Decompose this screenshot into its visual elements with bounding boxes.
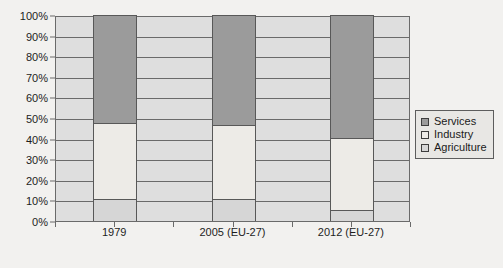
y-axis-tick-label: 40% xyxy=(0,134,48,145)
y-axis-tick-label: 20% xyxy=(0,175,48,186)
x-axis-boundary-tick-mark xyxy=(410,222,411,227)
bar-segment-industry xyxy=(330,139,374,211)
legend-item-label: Industry xyxy=(434,128,473,141)
y-axis-tick-label: 90% xyxy=(0,31,48,42)
legend-item-label: Services xyxy=(434,115,476,128)
legend-item-label: Agriculture xyxy=(434,141,487,154)
y-axis-tick-mark xyxy=(50,180,55,181)
y-axis-tick-mark xyxy=(50,16,55,17)
legend-swatch-icon xyxy=(421,144,429,152)
bar-segment-agriculture xyxy=(93,200,137,221)
x-axis-tick-label: 2005 (EU-27) xyxy=(199,226,265,238)
y-axis-tick-label: 70% xyxy=(0,72,48,83)
y-axis-tick-label: 0% xyxy=(0,217,48,228)
y-axis-tick-label: 10% xyxy=(0,196,48,207)
y-axis-tick-mark xyxy=(50,201,55,202)
legend-swatch-icon xyxy=(421,118,429,126)
bar-segment-agriculture xyxy=(330,211,374,221)
bar-segment-industry xyxy=(212,126,256,200)
legend-item: Services xyxy=(421,115,487,128)
bar-2005-eu-27- xyxy=(212,17,256,221)
y-axis-tick-label: 100% xyxy=(0,11,48,22)
x-axis: 19792005 (EU-27)2012 (EU-27) xyxy=(55,226,410,246)
plot-area xyxy=(55,16,410,222)
legend-item: Agriculture xyxy=(421,141,487,154)
bar-segment-services xyxy=(212,15,256,126)
y-axis-tick-label: 60% xyxy=(0,93,48,104)
y-axis-tick-mark xyxy=(50,139,55,140)
stacked-bar-chart: 0%10%20%30%40%50%60%70%80%90%100% 197920… xyxy=(0,0,503,268)
x-axis-boundary-tick-mark xyxy=(292,222,293,227)
x-axis-boundary-tick-mark xyxy=(173,222,174,227)
x-axis-boundary-tick-mark xyxy=(55,222,56,227)
bar-segment-agriculture xyxy=(212,200,256,221)
y-axis-tick-mark xyxy=(50,98,55,99)
y-axis-tick-mark xyxy=(50,77,55,78)
y-axis-tick-label: 50% xyxy=(0,114,48,125)
x-axis-tick-mark xyxy=(114,222,115,227)
legend-item: Industry xyxy=(421,128,487,141)
y-axis-tick-label: 30% xyxy=(0,155,48,166)
x-axis-tick-mark xyxy=(233,222,234,227)
y-axis-tick-mark xyxy=(50,57,55,58)
y-axis-tick-mark xyxy=(50,160,55,161)
y-axis-tick-label: 80% xyxy=(0,52,48,63)
bar-segment-services xyxy=(330,15,374,139)
legend-swatch-icon xyxy=(421,131,429,139)
chart-legend: ServicesIndustryAgriculture xyxy=(415,110,494,159)
x-axis-tick-mark xyxy=(351,222,352,227)
bar-segment-industry xyxy=(93,124,137,200)
x-axis-tick-label: 1979 xyxy=(102,226,126,238)
bar-2012-eu-27- xyxy=(330,17,374,221)
x-axis-tick-label: 2012 (EU-27) xyxy=(318,226,384,238)
y-axis: 0%10%20%30%40%50%60%70%80%90%100% xyxy=(0,0,48,268)
y-axis-tick-mark xyxy=(50,119,55,120)
bar-segment-services xyxy=(93,15,137,124)
bar-1979 xyxy=(93,17,137,221)
y-axis-tick-mark xyxy=(50,36,55,37)
